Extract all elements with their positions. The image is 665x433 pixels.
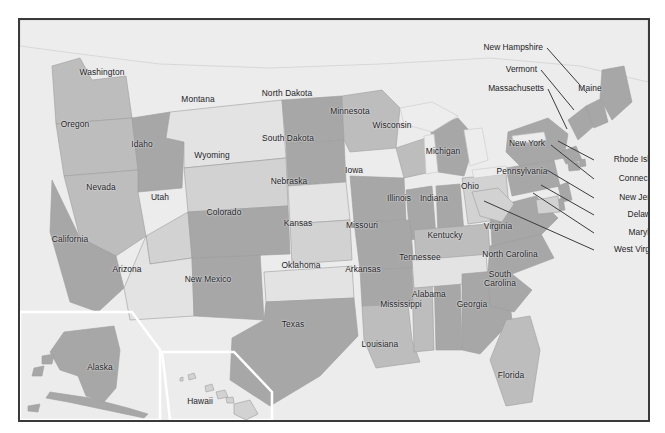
map-canvas: .s{stroke:#9d9d9e;stroke-width:.6;stroke…	[20, 20, 648, 420]
state-new-mexico	[192, 252, 264, 320]
state-iowa	[350, 176, 406, 222]
state-kansas	[290, 220, 352, 264]
us-map-figure: .s{stroke:#9d9d9e;stroke-width:.6;stroke…	[0, 0, 665, 433]
state-colorado	[188, 206, 290, 258]
callout-label-new-hampshire: New Hampshire	[483, 43, 543, 52]
state-nebraska	[288, 182, 350, 224]
state-rhode-island	[579, 159, 586, 167]
state-oregon	[56, 118, 138, 176]
callout-label-connecticut: Connecticut	[619, 174, 650, 183]
callout-label-west-virginia: West Virginia	[614, 245, 650, 254]
state-montana	[166, 100, 286, 168]
state-south-dakota	[286, 140, 346, 186]
callout-label-new-jersey: New Jersey	[619, 193, 650, 202]
state-missouri	[354, 220, 414, 270]
state-north-dakota	[282, 96, 344, 144]
state-arkansas	[360, 268, 414, 306]
callout-label-delaware: Delaware	[628, 210, 650, 219]
state-minnesota	[342, 90, 400, 152]
state-oklahoma	[264, 266, 354, 302]
callout-label-maryland: Maryland	[629, 228, 650, 237]
map-frame: .s{stroke:#9d9d9e;stroke-width:.6;stroke…	[18, 18, 650, 422]
callout-label-massachusetts: Massachusetts	[488, 84, 544, 93]
state-kentucky	[414, 224, 490, 260]
callout-label-rhode-island: Rhode Island	[614, 155, 650, 164]
callout-label-vermont: Vermont	[506, 65, 537, 74]
